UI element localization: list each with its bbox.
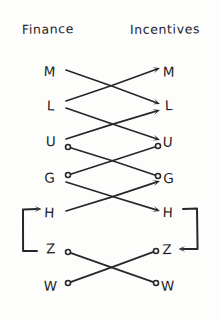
node-left-L: L bbox=[47, 97, 55, 113]
node-right-U: U bbox=[162, 133, 173, 149]
right-bracket bbox=[179, 209, 198, 252]
node-right-M: M bbox=[163, 63, 175, 79]
edges-layer bbox=[66, 68, 161, 286]
node-right-Z: Z bbox=[162, 241, 172, 257]
node-right-L: L bbox=[165, 97, 173, 113]
edge-W-to-Z bbox=[66, 249, 159, 286]
edge-endpoint-dot bbox=[66, 281, 71, 286]
node-left-W: W bbox=[43, 278, 57, 294]
node-right-H: H bbox=[162, 204, 173, 220]
edge-endpoint-dot bbox=[156, 144, 161, 149]
edge-endpoint-dot bbox=[66, 145, 71, 150]
node-left-M: M bbox=[43, 63, 55, 80]
node-left-U: U bbox=[46, 133, 56, 149]
node-right-G: G bbox=[163, 170, 174, 186]
column-header-left: Finance bbox=[22, 21, 74, 37]
node-right-W: W bbox=[161, 277, 175, 294]
diagram-svg: FinanceIncentives MMLLUUGGHHZZWW bbox=[0, 0, 220, 321]
edge-endpoint-dot bbox=[154, 249, 159, 254]
edge-endpoint-dot bbox=[154, 281, 159, 286]
node-left-G: G bbox=[44, 169, 55, 185]
left-bracket bbox=[23, 206, 42, 251]
edge-endpoint-dot bbox=[66, 250, 71, 255]
edge-M-to-L bbox=[66, 70, 160, 104]
node-labels-layer: MMLLUUGGHHZZWW bbox=[43, 63, 174, 294]
node-left-H: H bbox=[44, 204, 55, 220]
column-header-right: Incentives bbox=[130, 21, 200, 37]
column-headers-layer: FinanceIncentives bbox=[22, 21, 200, 37]
edge-endpoint-dot bbox=[156, 174, 161, 179]
edge-L-to-M bbox=[66, 68, 160, 101]
edge-endpoint-dot bbox=[66, 173, 71, 178]
node-left-Z: Z bbox=[46, 240, 56, 256]
diagram-canvas: FinanceIncentives MMLLUUGGHHZZWW bbox=[0, 0, 220, 321]
